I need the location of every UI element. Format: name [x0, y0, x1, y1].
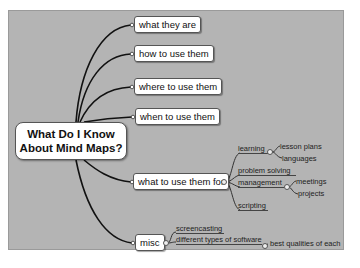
subtopic-screencasting[interactable]: screencasting [176, 224, 224, 234]
topic-when-to-use-them[interactable]: when to use them [135, 108, 220, 125]
central-topic-line1: What Do I Know [16, 127, 126, 141]
topic-what-they-are[interactable]: what they are [134, 16, 201, 33]
central-topic[interactable]: What Do I Know About Mind Maps? [15, 122, 127, 160]
topic-misc[interactable]: misc [135, 234, 165, 251]
subtopic-best-qualities-of-each[interactable]: best qualities of each [270, 239, 340, 248]
subtopic-problem-solving[interactable]: problem solving [238, 166, 296, 176]
subtopic-languages[interactable]: languages [282, 154, 317, 163]
topic-how-to-use-them[interactable]: how to use them [134, 45, 214, 62]
subtopic-different-types-of-software[interactable]: different types of software [176, 235, 262, 245]
subtopic-management[interactable]: management [238, 178, 284, 188]
collapse-toggle-icon[interactable] [284, 184, 290, 190]
topic-where-to-use-them[interactable]: where to use them [134, 78, 222, 95]
subtopic-learning[interactable]: learning [238, 144, 268, 154]
collapse-toggle-icon[interactable] [163, 240, 169, 246]
central-topic-line2: About Mind Maps? [16, 141, 126, 155]
subtopic-projects[interactable]: projects [298, 189, 324, 198]
collapse-toggle-icon[interactable] [221, 179, 227, 185]
collapse-toggle-icon[interactable] [267, 149, 273, 155]
subtopic-meetings[interactable]: meetings [296, 177, 326, 186]
topic-what-to-use-them-for[interactable]: what to use them for [133, 173, 229, 190]
subtopic-lesson-plans[interactable]: lesson plans [280, 142, 322, 151]
subtopic-scripting[interactable]: scripting [238, 201, 268, 211]
collapse-toggle-icon[interactable] [262, 243, 268, 249]
